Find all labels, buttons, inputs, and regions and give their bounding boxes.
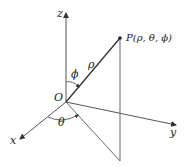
point-p-dot [118, 36, 122, 40]
projection-radial-line [66, 102, 120, 161]
point-p-label: P(ρ, θ, ϕ) [125, 32, 172, 43]
spherical-coordinates-diagram: z x y O P(ρ, θ, ϕ) ρ ϕ θ [0, 0, 190, 167]
rho-label: ρ [87, 58, 95, 71]
x-axis-label: x [10, 134, 17, 147]
y-axis-label: y [169, 126, 177, 139]
z-axis-label: z [56, 7, 63, 20]
phi-label: ϕ [71, 68, 79, 81]
theta-label: θ [58, 116, 65, 129]
y-axis [66, 102, 176, 125]
origin-label: O [54, 91, 63, 104]
phi-arc [66, 82, 79, 87]
